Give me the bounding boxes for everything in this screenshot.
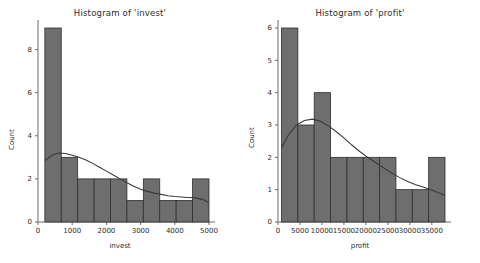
svg-text:6: 6	[28, 89, 33, 97]
svg-text:0: 0	[28, 218, 32, 226]
histogram-bar	[363, 157, 379, 222]
histogram-bar	[143, 179, 159, 222]
svg-text:35000: 35000	[421, 227, 443, 235]
svg-text:20000: 20000	[355, 227, 377, 235]
svg-text:6: 6	[268, 24, 273, 32]
svg-text:4: 4	[268, 89, 273, 97]
plot-area-profit: 0123456050001000015000200002500030000350…	[240, 0, 480, 240]
histogram-bar	[61, 157, 77, 222]
histogram-bar	[78, 179, 94, 222]
plot-svg-invest: 02468010002000300040005000	[0, 0, 240, 240]
svg-text:1000: 1000	[63, 227, 81, 235]
svg-text:3000: 3000	[132, 227, 150, 235]
svg-text:25000: 25000	[377, 227, 399, 235]
svg-text:8: 8	[28, 46, 32, 54]
histogram-bar	[94, 179, 110, 222]
svg-text:10000: 10000	[311, 227, 333, 235]
histogram-bar	[314, 93, 330, 222]
x-axis-label-invest: invest	[0, 242, 240, 250]
histogram-bar	[45, 28, 61, 222]
plot-area-invest: 02468010002000300040005000	[0, 0, 240, 240]
svg-text:0: 0	[268, 218, 272, 226]
svg-text:0: 0	[276, 227, 280, 235]
histogram-bar	[127, 200, 143, 222]
svg-text:2000: 2000	[97, 227, 115, 235]
x-axis-label-profit: profit	[240, 242, 480, 250]
svg-text:3: 3	[268, 121, 272, 129]
histogram-bar	[412, 190, 428, 222]
histogram-bar	[331, 157, 347, 222]
histogram-bar	[111, 179, 127, 222]
svg-text:2: 2	[268, 154, 272, 162]
chart-panel-invest: Histogram of 'invest' Count invest 02468…	[0, 0, 240, 263]
svg-text:30000: 30000	[399, 227, 421, 235]
chart-panel-profit: Histogram of 'profit' Count profit 01234…	[240, 0, 480, 263]
svg-text:5000: 5000	[291, 227, 309, 235]
svg-text:5000: 5000	[200, 227, 218, 235]
histogram-bar	[193, 179, 209, 222]
svg-text:4000: 4000	[166, 227, 184, 235]
plot-svg-profit: 0123456050001000015000200002500030000350…	[240, 0, 480, 240]
svg-text:15000: 15000	[333, 227, 355, 235]
histogram-bar	[160, 200, 176, 222]
figure-canvas: Histogram of 'invest' Count invest 02468…	[0, 0, 480, 263]
svg-text:2: 2	[28, 175, 32, 183]
histogram-bar	[298, 125, 314, 222]
svg-text:1: 1	[268, 186, 272, 194]
histogram-bar	[176, 200, 192, 222]
histogram-bar	[396, 190, 412, 222]
histogram-bar	[347, 157, 363, 222]
svg-text:5: 5	[268, 57, 272, 65]
svg-text:4: 4	[28, 132, 33, 140]
svg-text:0: 0	[36, 227, 40, 235]
histogram-bar	[282, 28, 298, 222]
